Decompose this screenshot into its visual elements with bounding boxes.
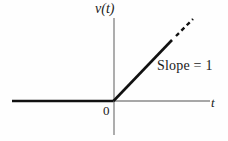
y-axis-label: v(t) xyxy=(95,2,114,16)
origin-label: 0 xyxy=(103,104,110,117)
slope-annotation: Slope = 1 xyxy=(157,59,213,73)
ramp-function-figure: v(t) t 0 Slope = 1 xyxy=(0,0,228,141)
x-axis-label: t xyxy=(211,96,215,109)
signal-ramp-dashed-extension xyxy=(176,19,193,36)
